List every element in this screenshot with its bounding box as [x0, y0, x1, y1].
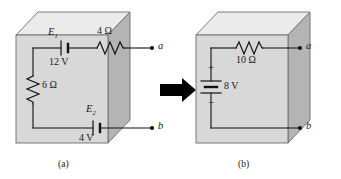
transformation-arrow [160, 78, 196, 102]
terminal-b-dot-panel-b [298, 126, 302, 130]
terminal-label-a-panel-b: a [306, 41, 311, 52]
label-polarity-plus: + [208, 62, 214, 73]
arrow-shape [160, 78, 196, 102]
label-e1: E1 [48, 27, 58, 40]
box-a-front-face [16, 35, 108, 143]
label-4ohm: 4 Ω [97, 26, 112, 36]
label-10ohm: 10 Ω [236, 55, 256, 65]
caption-panel-a: (a) [58, 160, 69, 170]
label-4v: 4 V [79, 133, 94, 143]
terminal-a-dot-panel-a [150, 46, 154, 50]
label-12v: 12 V [49, 57, 69, 67]
panel-b-box [196, 12, 310, 143]
caption-panel-b: (b) [238, 160, 249, 170]
terminal-b-dot-panel-a [150, 126, 154, 130]
label-8v: 8 V [224, 81, 239, 91]
box-b-front-face [196, 35, 288, 143]
label-e2-subscript: 2 [92, 109, 95, 116]
terminal-label-b-panel-b: b [306, 121, 311, 132]
terminal-label-b-panel-a: b [158, 121, 163, 132]
label-6ohm: 6 Ω [42, 80, 57, 90]
terminal-a-dot-panel-b [298, 46, 302, 50]
label-e1-subscript: 1 [54, 32, 57, 39]
label-e2: E2 [86, 104, 96, 117]
label-polarity-minus: − [208, 97, 214, 108]
terminal-label-a-panel-a: a [158, 41, 163, 52]
